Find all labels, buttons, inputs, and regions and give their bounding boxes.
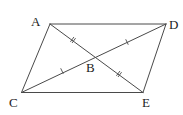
segment-ac: [22, 24, 51, 93]
segment-cd: [22, 24, 167, 93]
segment-ae: [50, 24, 143, 93]
edges-group: [22, 24, 167, 93]
vertex-label-c: C: [9, 95, 18, 110]
vertex-label-e: E: [142, 95, 150, 110]
parallelogram-diagram: A D C E B: [0, 0, 183, 115]
vertex-label-b: B: [86, 60, 95, 75]
segment-ed: [143, 24, 166, 93]
vertex-label-d: D: [169, 17, 178, 32]
vertex-label-a: A: [31, 14, 41, 29]
